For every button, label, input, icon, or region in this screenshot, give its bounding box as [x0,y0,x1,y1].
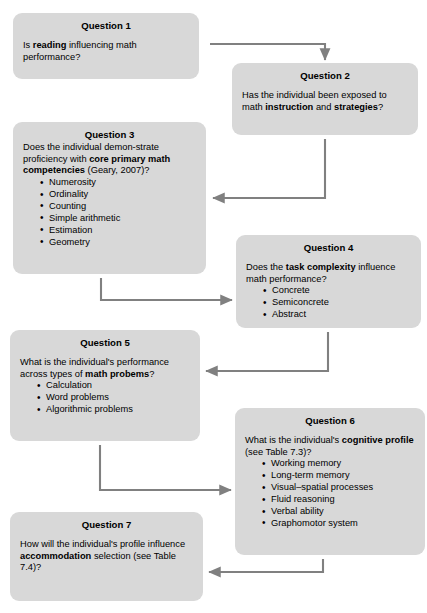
spacer [246,255,411,262]
connector-q2-q3 [213,139,325,198]
bullet-item: Abstract [272,309,411,321]
question-box-1-title: Question 1 [23,20,189,32]
flowchart-diagram: Question 1 Is reading influencing math p… [0,0,427,613]
bullet-item: Verbal ability [271,506,415,518]
question-box-3: Question 3 Does the individual demon-str… [13,122,206,274]
question-box-7: Question 7 How will the individual's pro… [10,512,203,601]
bullet-item: Algorithmic problems [46,404,190,416]
question-box-5: Question 5 What is the individual's perf… [10,330,200,441]
question-box-3-title: Question 3 [23,129,196,141]
spacer [20,350,190,357]
bullet-item: Concrete [272,285,411,297]
connector-q3-q4 [101,278,232,300]
question-box-4: Question 4 Does the task complexity infl… [236,235,421,328]
question-box-6-title: Question 6 [245,415,415,427]
bullet-item: Working memory [271,458,415,470]
connector-q4-q5 [206,332,328,371]
question-box-3-body: Does the individual demon-strate profici… [23,142,196,177]
question-box-4-body: Does the task complexity influence math … [246,262,411,285]
question-box-7-body: How will the individual's profile influe… [20,539,193,574]
spacer [245,428,415,435]
spacer [20,532,193,539]
bullet-item: Estimation [49,225,196,237]
connector-q5-q6 [100,445,231,490]
question-box-4-title: Question 4 [246,242,411,254]
question-box-6: Question 6 What is the individual's cogn… [235,408,425,555]
question-box-3-bullets: NumerosityOrdinalityCountingSimple arith… [23,177,196,248]
bullet-item: Graphomotor system [271,518,415,530]
bullet-item: Geometry [49,237,196,249]
question-box-2-body: Has the individual been exposed to math … [242,90,408,113]
bullet-item: Numerosity [49,177,196,189]
connector-q1-q2 [210,44,325,60]
bullet-item: Semiconcrete [272,297,411,309]
bullet-item: Fluid reasoning [271,494,415,506]
question-box-6-body: What is the individual's cognitive profi… [245,435,415,458]
bullet-item: Long-term memory [271,470,415,482]
question-box-6-bullets: Working memoryLong-term memoryVisual–spa… [245,458,415,529]
spacer [242,83,408,90]
bullet-item: Word problems [46,392,190,404]
question-box-5-body: What is the individual's performance acr… [20,357,190,380]
bullet-item: Counting [49,201,196,213]
connector-q6-q7 [209,559,323,572]
question-box-7-title: Question 7 [20,519,193,531]
question-box-5-bullets: CalculationWord problemsAlgorithmic prob… [20,380,190,416]
question-box-2: Question 2 Has the individual been expos… [232,63,418,135]
question-box-4-bullets: ConcreteSemiconcreteAbstract [246,285,411,321]
question-box-5-title: Question 5 [20,337,190,349]
spacer [23,33,189,40]
question-box-1: Question 1 Is reading influencing math p… [13,13,199,79]
bullet-item: Simple arithmetic [49,213,196,225]
bullet-item: Ordinality [49,189,196,201]
bullet-item: Visual–spatial processes [271,482,415,494]
question-box-2-title: Question 2 [242,70,408,82]
question-box-1-body: Is reading influencing math performance? [23,40,189,63]
bullet-item: Calculation [46,380,190,392]
